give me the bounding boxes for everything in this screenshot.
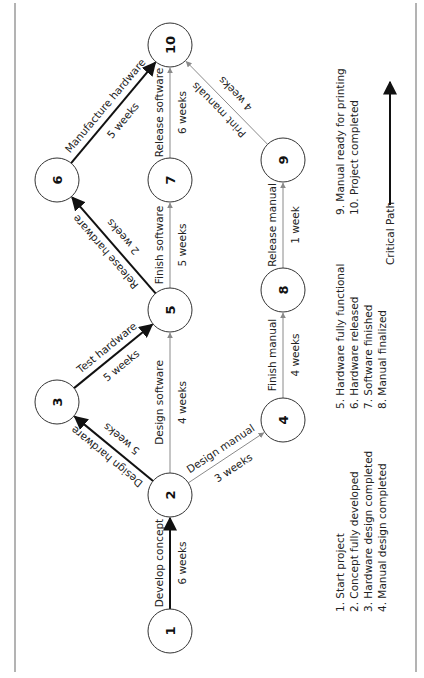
edge-8-9: Release manual1 week [266, 183, 301, 268]
diagram-canvas: Develop concept6 weeksDesign hardware5 w… [0, 0, 424, 678]
edges-group: Develop concept6 weeksDesign hardware5 w… [62, 56, 301, 609]
node-5: 5 [148, 288, 192, 332]
node-6: 6 [35, 158, 79, 202]
edge-task-label: Print manuals [189, 80, 248, 140]
edge-task-label: Develop concept [153, 519, 165, 607]
edge-3-5: Test hardware5 weeks [73, 320, 152, 388]
node-2: 2 [148, 473, 192, 517]
node-3: 3 [35, 380, 79, 424]
edge-9-10: Print manuals4 weeks [186, 61, 267, 144]
node-number: 5 [163, 305, 178, 314]
node-number: 7 [163, 175, 178, 184]
node-1: 1 [148, 609, 192, 653]
edge-duration-label: 6 weeks [176, 541, 188, 584]
node-number: 2 [163, 490, 178, 499]
legend: 1. Start project2. Concept fully develop… [334, 68, 396, 612]
legend-col2: 5. Hardware fully functional6. Hardware … [334, 264, 388, 409]
edge-5-6: Release hardware2 weeks [70, 197, 156, 293]
edge-task-label: Release manual [266, 183, 278, 267]
edge-2-4: Design manual3 weeks [184, 422, 264, 485]
edge-arrow [186, 61, 267, 144]
edge-7-10: Release software6 weeks [153, 68, 188, 158]
node-9: 9 [261, 138, 305, 182]
legend-col3: 9. Manual ready for printing10. Project … [334, 68, 360, 215]
edge-4-8: Finish manual4 weeks [266, 313, 301, 398]
edge-task-label: Test hardware [73, 320, 138, 376]
edge-duration-label: 4 weeks [289, 333, 301, 376]
node-number: 6 [50, 175, 65, 184]
node-number: 3 [50, 397, 65, 406]
edge-2-5: Design software4 weeks [153, 333, 188, 473]
node-number: 9 [276, 155, 291, 164]
node-8: 8 [261, 268, 305, 312]
node-number: 4 [276, 415, 291, 424]
edge-task-label: Finish software [153, 206, 165, 284]
edge-arrow [72, 197, 155, 293]
edge-1-2: Develop concept6 weeks [153, 518, 188, 609]
node-7: 7 [148, 158, 192, 202]
edge-arrow [71, 63, 155, 163]
edge-6-10: Manufacture hardware5 weeks [62, 56, 155, 163]
edge-task-label: Design manual [184, 422, 256, 476]
edge-duration-label: 1 week [289, 205, 301, 244]
node-number: 8 [276, 285, 291, 294]
node-number: 10 [163, 36, 178, 54]
node-number: 1 [163, 626, 178, 635]
edge-duration-label: 5 weeks [176, 223, 188, 266]
edge-duration-label: 6 weeks [176, 91, 188, 134]
node-4: 4 [261, 398, 305, 442]
edge-task-label: Release software [153, 68, 165, 157]
node-10: 10 [148, 23, 192, 67]
legend-col1: 1. Start project2. Concept fully develop… [334, 451, 388, 612]
edge-task-label: Finish manual [266, 319, 278, 392]
critical-path-label: Critical Path [384, 202, 396, 265]
edge-2-3: Design hardware5 weeks [68, 417, 153, 490]
edge-task-label: Design software [153, 360, 165, 445]
network-diagram: Develop concept6 weeksDesign hardware5 w… [0, 0, 424, 678]
edge-duration-label: 4 weeks [176, 381, 188, 424]
edge-5-7: Finish software5 weeks [153, 203, 188, 288]
